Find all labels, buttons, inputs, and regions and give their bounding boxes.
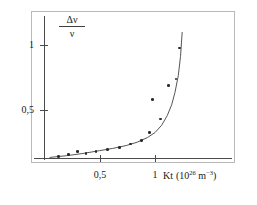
x-axis-line [34, 158, 232, 159]
y-tick-mark-0p5 [40, 110, 48, 111]
y-tick-label-0p5: 0,5 [2, 105, 34, 115]
x-tick-label-0p5: 0,5 [85, 170, 115, 180]
x-axis-title-symbol: Kt [163, 170, 173, 181]
y-tick-mark-1 [40, 45, 48, 46]
y-axis-title: Δν ν [52, 14, 92, 39]
y-axis-title-denominator: ν [52, 27, 92, 39]
x-axis-units-open: (10 [176, 170, 189, 181]
x-axis-units-mid: m [196, 170, 206, 181]
y-axis-title-numerator: Δν [52, 14, 92, 26]
y-axis-line [44, 16, 45, 160]
x-axis-units-close: ) [213, 170, 216, 181]
x-tick-mark-1 [155, 155, 156, 162]
figure-container: 1 0,5 0,5 1 Δν ν Kt (1026 m−3) [0, 0, 257, 205]
x-axis-units-exponent-2: −3 [206, 169, 213, 176]
x-axis-title: Kt (1026 m−3) [163, 170, 216, 181]
y-tick-label-1: 1 [6, 40, 34, 50]
x-tick-mark-0p5 [100, 155, 101, 162]
